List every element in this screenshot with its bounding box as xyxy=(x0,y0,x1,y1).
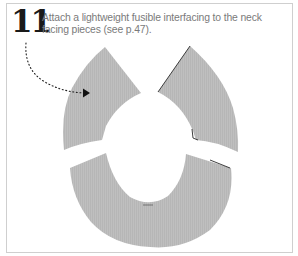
facing-pieces-illustration xyxy=(0,0,298,256)
right-facing-piece xyxy=(158,46,238,152)
left-facing-piece xyxy=(63,47,141,150)
back-facing-piece xyxy=(70,153,232,247)
